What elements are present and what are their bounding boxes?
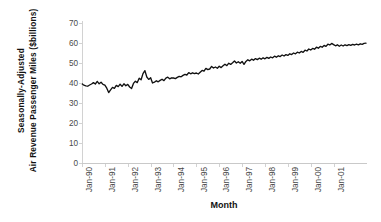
x-tick-label: Jan-98 [268,167,277,192]
x-tick-label: Jan-90 [85,167,94,192]
x-tick-label: Jan-93 [154,167,163,192]
x-axis-title: Month [82,200,366,210]
y-tick-mark [79,63,82,64]
x-tick-label: Jan-01 [337,167,346,192]
y-tick-mark [79,123,82,124]
x-tick-label: Jan-91 [108,167,117,192]
y-tick-mark [79,163,82,164]
y-tick-mark [79,83,82,84]
y-tick-mark [79,103,82,104]
x-tick-label: Jan-94 [177,167,186,192]
series-line [82,23,366,163]
plot-area [82,23,366,163]
x-tick-label: Jan-99 [291,167,300,192]
y-tick-mark [79,143,82,144]
x-tick-label: Jan-96 [222,167,231,192]
x-tick-label: Jan-95 [200,167,209,192]
x-tick-label: Jan-92 [131,167,140,192]
x-tick-label: Jan-00 [314,167,323,192]
y-tick-mark [79,43,82,44]
x-axis-line [82,163,367,164]
x-tick-label: Jan-97 [245,167,254,192]
chart-figure: Seasonally-Adjusted Air Revenue Passenge… [0,0,381,222]
y-tick-mark [79,23,82,24]
